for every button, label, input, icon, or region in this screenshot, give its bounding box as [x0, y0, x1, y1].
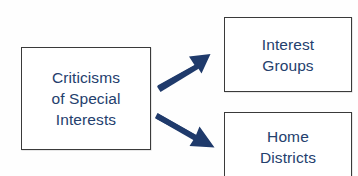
node-home-districts-label: Home Districts — [256, 126, 320, 168]
node-home-districts: Home Districts — [224, 112, 352, 176]
node-criticisms-label: Criticisms of Special Interests — [47, 67, 124, 130]
node-interest-groups: Interest Groups — [224, 17, 352, 92]
arrow-up-right-icon — [157, 54, 211, 92]
arrow-down-right-icon — [155, 113, 215, 148]
node-interest-groups-label: Interest Groups — [258, 34, 319, 76]
flowchart-diagram: Criticisms of Special Interests Interest… — [0, 0, 358, 176]
node-criticisms-of-special-interests: Criticisms of Special Interests — [21, 47, 151, 150]
